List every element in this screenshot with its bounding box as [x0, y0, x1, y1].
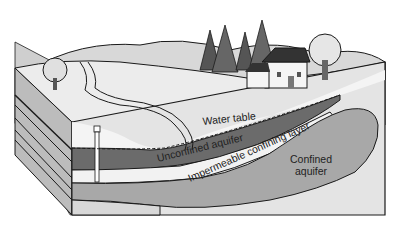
- aquifer-diagram: Water table Unconfined aquifer Impermeab…: [0, 0, 400, 230]
- well: [94, 126, 100, 182]
- label-confined-line2: aquifer: [295, 165, 328, 177]
- label-confined-line1: Confined: [290, 153, 332, 165]
